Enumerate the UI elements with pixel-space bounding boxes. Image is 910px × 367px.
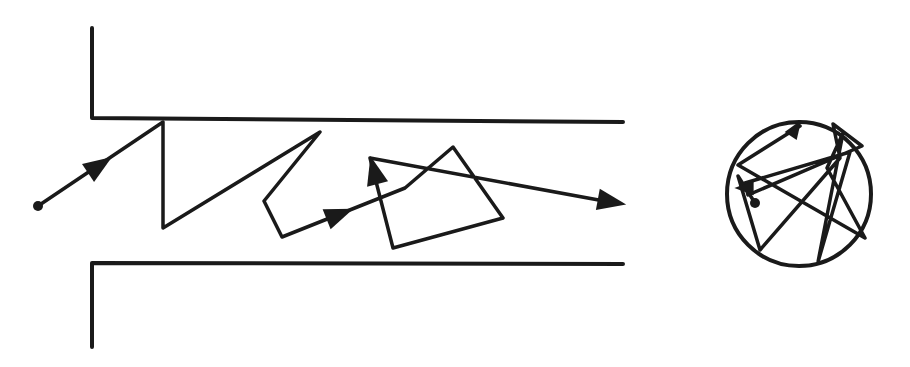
sphere <box>727 122 871 266</box>
bottom-wall <box>92 263 623 347</box>
diagram-canvas <box>0 0 910 367</box>
top-wall <box>92 28 623 122</box>
sphere-start-dot-icon <box>750 198 760 208</box>
arrowhead-icon <box>596 189 626 210</box>
channel <box>38 28 623 347</box>
random-walk-path <box>38 122 615 248</box>
start-dot-icon <box>33 201 43 211</box>
arrowhead-icon <box>82 157 112 182</box>
sphere-random-walk-path <box>738 124 865 262</box>
arrowhead-icon <box>323 209 354 230</box>
